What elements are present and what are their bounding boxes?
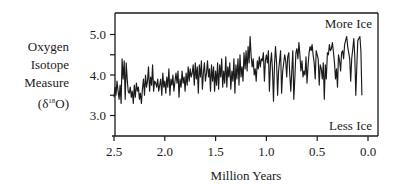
x-tick-label: 1.0 bbox=[258, 144, 274, 159]
x-tick-label: 2.5 bbox=[106, 144, 122, 159]
x-axis-title: Million Years bbox=[211, 168, 282, 183]
chart-area: 3.04.05.0 2.52.01.51.00.50.0 More Ice Le… bbox=[0, 0, 401, 184]
y-tick-label: 5.0 bbox=[90, 27, 106, 42]
x-ticks: 2.52.01.51.00.50.0 bbox=[106, 136, 376, 159]
less-ice-annotation: Less Ice bbox=[329, 118, 372, 133]
y-ticks: 3.04.05.0 bbox=[90, 27, 115, 123]
more-ice-annotation: More Ice bbox=[325, 16, 373, 31]
x-tick-label: 1.5 bbox=[207, 144, 223, 159]
x-tick-label: 0.0 bbox=[360, 144, 376, 159]
x-tick-label: 0.5 bbox=[309, 144, 325, 159]
y-tick-label: 4.0 bbox=[90, 68, 106, 83]
x-tick-label: 2.0 bbox=[157, 144, 173, 159]
y-tick-label: 3.0 bbox=[90, 108, 106, 123]
data-line bbox=[114, 37, 362, 104]
